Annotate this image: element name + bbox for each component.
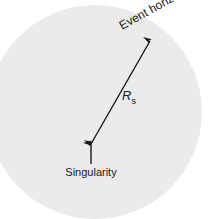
- radius-symbol-text: R: [122, 88, 131, 103]
- event-horizon-disc: [0, 5, 202, 219]
- black-hole-diagram: Event horizon Rs Singularity: [0, 0, 208, 219]
- radius-subscript-text: s: [131, 96, 136, 106]
- diagram-canvas: Event horizon Rs Singularity: [0, 0, 208, 219]
- singularity-label-text: Singularity: [65, 166, 117, 178]
